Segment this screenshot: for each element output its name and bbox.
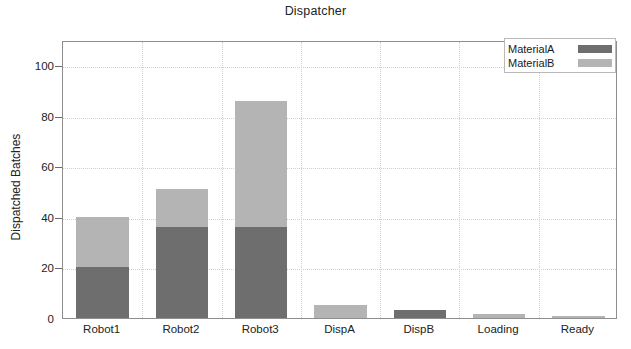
- y-tick-label: 100: [35, 60, 54, 72]
- bar-group[interactable]: [314, 40, 366, 318]
- bar-segment-materiala[interactable]: [76, 267, 128, 318]
- bar-segment-materiala[interactable]: [235, 227, 287, 318]
- legend-label: MaterialB: [508, 57, 554, 69]
- bar-group[interactable]: [473, 40, 525, 318]
- legend-label: MaterialA: [508, 43, 554, 55]
- bar-segment-materialb[interactable]: [552, 316, 604, 318]
- chart-title: Dispatcher: [0, 4, 631, 18]
- y-tick-mark: [55, 66, 62, 67]
- legend-item[interactable]: MaterialB: [508, 56, 612, 69]
- bar-segment-materialb[interactable]: [235, 101, 287, 227]
- bar-segment-materiala[interactable]: [394, 310, 446, 318]
- chart-container: Dispatcher Dispatched Batches 0204060801…: [0, 0, 631, 349]
- bar-segment-materialb[interactable]: [76, 217, 128, 268]
- x-tick-label: DispB: [403, 323, 434, 335]
- y-axis-ticks: 020406080100: [0, 41, 62, 319]
- bar-segment-materiala[interactable]: [156, 227, 208, 318]
- legend-swatch-materialb: [578, 59, 612, 67]
- y-tick-label: 40: [41, 212, 54, 224]
- bar-group[interactable]: [156, 40, 208, 318]
- y-tick-label: 80: [41, 111, 54, 123]
- bar-group[interactable]: [552, 40, 604, 318]
- plot-area: [62, 41, 617, 319]
- bar-group[interactable]: [235, 40, 287, 318]
- legend-swatch-materiala: [578, 45, 612, 53]
- x-tick-label: Robot3: [242, 323, 279, 335]
- x-tick-label: Robot1: [83, 323, 120, 335]
- x-axis-labels: Robot1Robot2Robot3DispADispBLoadingReady: [62, 323, 617, 345]
- y-tick-label: 0: [48, 313, 54, 325]
- y-tick-mark: [55, 167, 62, 168]
- legend-item[interactable]: MaterialA: [508, 42, 612, 55]
- bar-segment-materialb[interactable]: [473, 314, 525, 318]
- y-tick-mark: [55, 218, 62, 219]
- bar-segment-materialb[interactable]: [156, 189, 208, 227]
- legend: MaterialA MaterialB: [504, 38, 616, 73]
- bar-group[interactable]: [76, 40, 128, 318]
- y-tick-label: 60: [41, 161, 54, 173]
- bar-segment-materialb[interactable]: [314, 305, 366, 318]
- x-tick-label: DispA: [324, 323, 355, 335]
- y-tick-mark: [55, 117, 62, 118]
- x-tick-label: Robot2: [162, 323, 199, 335]
- bars-layer: [63, 42, 616, 318]
- bar-group[interactable]: [394, 40, 446, 318]
- x-tick-label: Loading: [478, 323, 519, 335]
- y-tick-label: 20: [41, 262, 54, 274]
- x-tick-label: Ready: [561, 323, 594, 335]
- y-tick-mark: [55, 268, 62, 269]
